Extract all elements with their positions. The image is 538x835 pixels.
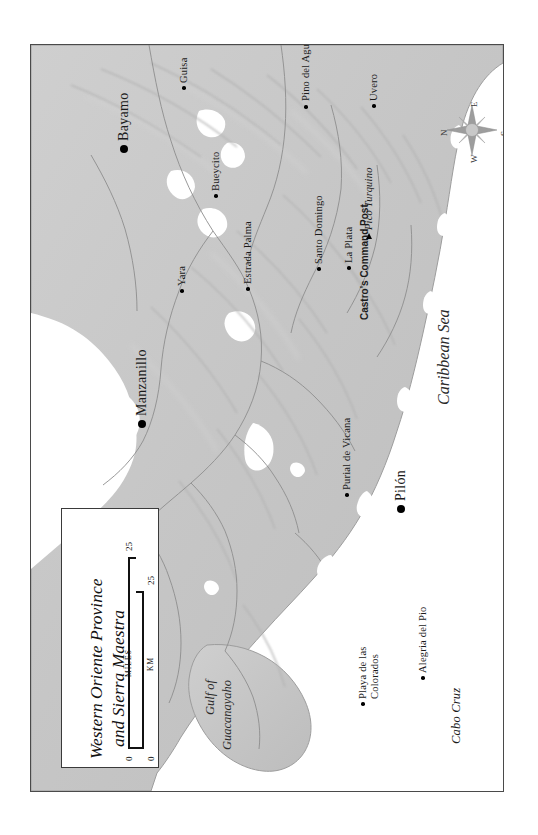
label-purial-de-vicana: Purial de Vicana — [342, 418, 353, 490]
compass-label-south: S — [499, 131, 504, 136]
scale-km-max: 25 — [146, 576, 156, 585]
label-bueycito: Bueycito — [211, 151, 222, 191]
dot-pino-del-agua[interactable] — [304, 105, 308, 109]
label-uvero: Uvero — [369, 74, 380, 101]
scale-bar-km — [142, 591, 144, 749]
compass-label-east: E — [469, 102, 479, 108]
compass-rose: E N S W — [435, 93, 504, 167]
label-la-plata: La Plata — [344, 227, 355, 263]
label-caribbean-sea: Caribbean Sea — [436, 309, 452, 405]
label-pico-turquino: Pico Turquino — [364, 167, 375, 230]
label-guisa: Guisa — [179, 58, 190, 84]
dot-santo-domingo[interactable] — [317, 267, 321, 271]
label-playa-de-las-colorados-line2: Colorados — [370, 654, 381, 699]
label-pino-del-agua: Pino del Agua — [301, 44, 312, 101]
map-title-line-1: Western Oriente Province — [86, 579, 107, 759]
dot-la-plata[interactable] — [347, 266, 351, 270]
label-pilon: Pilón — [394, 470, 408, 501]
dot-bueycito[interactable] — [214, 194, 218, 198]
dot-guisa[interactable] — [182, 86, 186, 90]
label-santo-domingo: Santo Domingo — [314, 195, 325, 264]
dot-bayamo[interactable] — [120, 145, 128, 153]
scale-miles-max: 25 — [124, 542, 134, 551]
dot-alegria-del-pio[interactable] — [421, 676, 425, 680]
dot-estrada-palma[interactable] — [246, 287, 250, 291]
scale-bar-km-tick-max — [136, 591, 144, 593]
scale-bar-miles-tick-min — [128, 747, 136, 749]
map-page: Guisa Bayamo Pino del Agua Uvero Bueycit… — [0, 0, 538, 835]
label-bayamo: Bayamo — [117, 93, 131, 141]
dot-playa-de-las-colorados[interactable] — [361, 702, 365, 706]
label-alegria-del-pio: Alegria del Pio — [418, 606, 429, 673]
dot-uvero[interactable] — [372, 104, 376, 108]
dot-pilon[interactable] — [397, 505, 405, 513]
label-gulf-of-guacanayaho-line2: Guacanayaho — [221, 680, 234, 750]
scale-caption-miles: MILES — [124, 649, 133, 677]
dot-yara[interactable] — [180, 289, 184, 293]
label-playa-de-las-colorados-line1: Playa de las — [358, 646, 369, 699]
scale-caption-km: KM — [146, 657, 155, 671]
label-estrada-palma: Estrada Palma — [243, 221, 254, 284]
map-title-line-2: and Sierra Maestra — [108, 610, 129, 747]
scale-km-min: 0 — [146, 757, 156, 762]
scale-miles-min: 0 — [124, 757, 134, 762]
scale-bar-km-tick-min — [136, 747, 144, 749]
scale-bar-miles-tick-max — [128, 557, 136, 559]
label-cabo-cruz: Cabo Cruz — [450, 688, 463, 744]
title-scale-cartouche: Western Oriente Province and Sierra Maes… — [61, 508, 159, 768]
compass-label-west: W — [469, 155, 479, 164]
dot-manzanillo[interactable] — [138, 420, 146, 428]
label-manzanillo: Manzanillo — [135, 349, 149, 416]
label-gulf-of-guacanayaho-line1: Gulf of — [204, 680, 217, 715]
dot-purial-de-vicana[interactable] — [345, 493, 349, 497]
label-yara: Yara — [177, 266, 188, 286]
compass-label-north: N — [439, 130, 449, 137]
